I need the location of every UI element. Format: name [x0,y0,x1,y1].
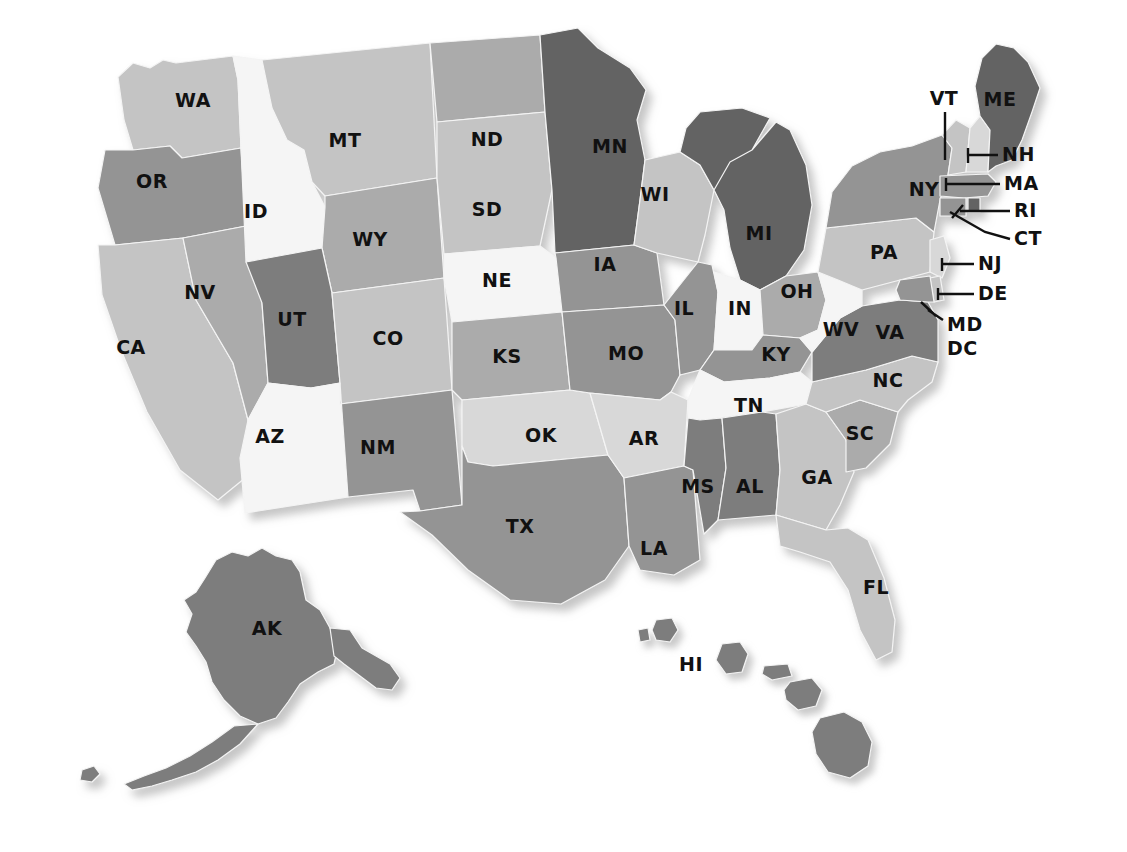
us-map-svg: WA OR CA NV ID MT WY UT AZ CO NM ND SD N… [0,0,1127,852]
state-label-WI: WI [640,183,669,205]
state-label-IN: IN [728,297,752,319]
state-label-IA: IA [594,253,617,275]
state-label-ND: ND [471,128,504,150]
state-label-CO: CO [372,327,403,349]
state-label-SC: SC [846,422,875,444]
callout-label-DC: DC [947,337,978,359]
state-shape-NJ[interactable] [930,236,950,278]
us-map-container: WA OR CA NV ID MT WY UT AZ CO NM ND SD N… [0,0,1127,852]
state-shape-HI-niihau[interactable] [638,628,650,642]
state-label-OH: OH [780,280,813,302]
callout-label-NJ: NJ [978,252,1002,274]
callout-label-CT: CT [1014,227,1042,249]
state-label-KY: KY [761,343,790,365]
callout-label-DE: DE [978,282,1008,304]
state-label-NM: NM [360,436,396,458]
state-label-GA: GA [801,466,832,488]
state-label-PA: PA [870,241,898,263]
state-label-ME: ME [984,88,1017,110]
state-label-WY: WY [352,228,388,250]
state-label-AK: AK [252,617,283,639]
state-label-NC: NC [873,369,904,391]
state-shape-AK-island-1[interactable] [80,766,100,782]
state-label-NE: NE [482,269,512,291]
state-label-FL: FL [863,576,889,598]
state-label-MN: MN [592,135,628,157]
state-label-KS: KS [492,345,521,367]
state-label-MT: MT [329,129,362,151]
state-label-NY: NY [909,178,940,200]
state-label-OR: OR [136,170,168,192]
state-shape-HI-bigisland[interactable] [812,712,872,778]
state-label-ID: ID [244,200,268,222]
state-label-NV: NV [184,281,216,303]
state-label-UT: UT [277,308,306,330]
callout-label-RI: RI [1014,199,1037,221]
state-label-LA: LA [640,537,668,559]
state-label-MS: MS [681,475,715,497]
state-label-WV: WV [823,318,860,340]
callout-label-MA: MA [1004,172,1039,194]
state-shape-HI-oahu[interactable] [716,642,748,674]
state-label-IL: IL [674,297,694,319]
callout-label-NH: NH [1002,143,1035,165]
state-label-MI: MI [746,222,773,244]
state-shape-HI-molokai[interactable] [762,664,792,680]
state-shape-AL[interactable] [718,412,780,520]
alaska-group [80,548,400,790]
hawaii-group [638,618,872,778]
leader-line-CT [950,212,1010,239]
state-label-AR: AR [629,427,659,449]
state-label-OK: OK [525,424,558,446]
state-label-CA: CA [116,336,146,358]
state-label-TX: TX [506,515,535,537]
callout-label-VT: VT [930,87,959,109]
state-label-AZ: AZ [255,425,284,447]
state-shape-MD[interactable] [896,276,934,302]
state-shape-NM[interactable] [340,383,462,511]
state-label-AL: AL [736,475,764,497]
state-shape-HI-maui[interactable] [784,678,822,710]
state-shape-AK-aleutians[interactable] [124,724,258,790]
state-label-HI: HI [679,653,703,675]
state-label-VA: VA [875,321,904,343]
state-label-WA: WA [175,89,211,111]
state-label-TN: TN [734,394,764,416]
state-label-SD: SD [472,198,502,220]
state-shape-ND[interactable] [430,35,545,122]
state-shape-AK-panhandle[interactable] [330,628,400,690]
state-shape-HI-kauai[interactable] [652,618,678,642]
state-label-MO: MO [608,342,644,364]
callout-label-MD: MD [947,313,983,335]
state-shape-MA[interactable] [940,174,996,198]
